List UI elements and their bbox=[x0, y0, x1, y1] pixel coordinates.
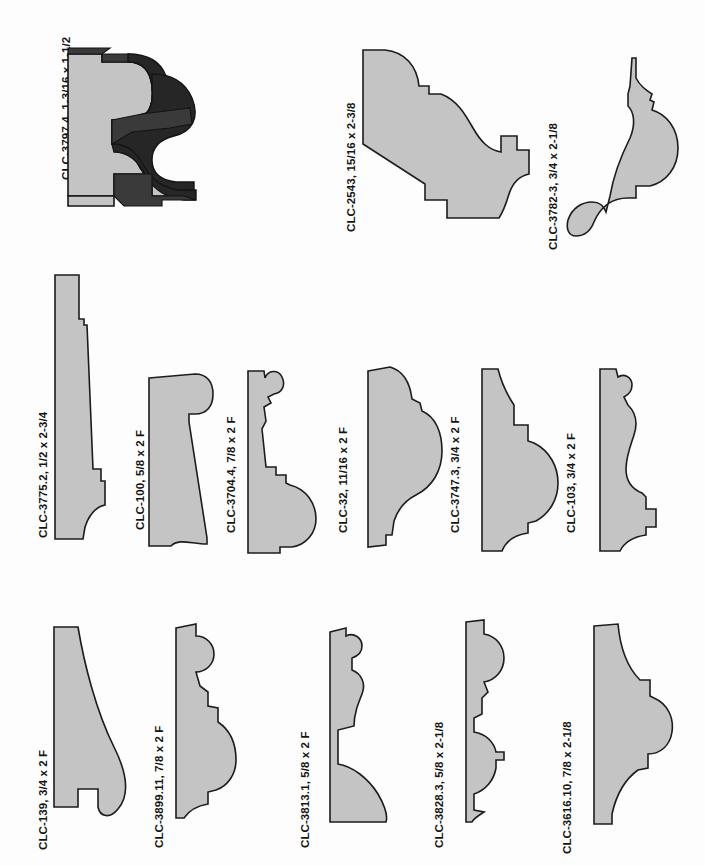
profile-item-clc-3782-3[interactable]: CLC-3782-3, 3/4 x 2-1/8 bbox=[538, 0, 705, 270]
profile-label: CLC-3704.4, 7/8 x 2 F bbox=[226, 416, 238, 533]
profile-label: CLC-100, 5/8 x 2 F bbox=[135, 430, 147, 530]
molding-profile-drawing bbox=[328, 626, 413, 826]
profile-label: CLC-32, 11/16 x 2 F bbox=[338, 427, 350, 533]
profile-label: CLC-103, 3/4 x 2 F bbox=[566, 433, 578, 533]
profile-label: CLC-3775.2, 1/2 x 2-3/4 bbox=[38, 412, 50, 538]
profile-item-clc-3704-4[interactable]: CLC-3704.4, 7/8 x 2 F bbox=[222, 265, 352, 555]
profile-label: CLC-3747.3, 3/4 x 2 F bbox=[450, 416, 462, 533]
molding-profile-drawing bbox=[592, 622, 682, 827]
molding-profile-drawing bbox=[174, 622, 264, 822]
molding-profile-drawing bbox=[566, 56, 696, 236]
profile-label: CLC-3828.3, 5/8 x 2-1/8 bbox=[434, 722, 446, 848]
molding-profile-drawing bbox=[147, 370, 227, 550]
catalog-page: CLC-3797.4, 1-3/16 x 1-1/2 bbox=[0, 0, 705, 866]
profile-label: CLC-139, 3/4 x 2 F bbox=[38, 750, 50, 850]
molding-profile-drawing bbox=[598, 365, 683, 555]
profile-item-clc-103[interactable]: CLC-103, 3/4 x 2 F bbox=[562, 265, 697, 555]
profile-label: CLC-3782-3, 3/4 x 2-1/8 bbox=[548, 123, 560, 250]
profile-label: CLC-3616.10, 7/8 x 2-1/8 bbox=[562, 721, 574, 854]
molding-profile-drawing bbox=[53, 273, 123, 543]
profile-item-clc-32[interactable]: CLC-32, 11/16 x 2 F bbox=[334, 265, 464, 555]
molding-profile-drawing bbox=[480, 365, 565, 555]
molding-profile-drawing bbox=[366, 365, 451, 555]
molding-profile-drawing bbox=[361, 48, 531, 223]
profile-item-clc-3747-3[interactable]: CLC-3747.3, 3/4 x 2 F bbox=[446, 265, 581, 555]
profile-item-clc-3899-11[interactable]: CLC-3899.11, 7/8 x 2 F bbox=[142, 580, 292, 866]
profile-label: CLC-3899.11, 7/8 x 2 F bbox=[154, 726, 166, 848]
molding-profile-drawing bbox=[246, 367, 331, 557]
profile-label: CLC-2543, 15/16 x 2-3/8 bbox=[346, 102, 358, 232]
molding-profile-drawing bbox=[52, 623, 142, 823]
profile-item-clc-3813-1[interactable]: CLC-3813.1, 5/8 x 2 F bbox=[278, 580, 428, 866]
molding-profile-drawing bbox=[464, 618, 549, 823]
profile-label: CLC-3813.1, 5/8 x 2 F bbox=[300, 731, 312, 848]
profile-item-clc-2543[interactable]: CLC-2543, 15/16 x 2-3/8 bbox=[338, 0, 538, 260]
molding-profile-drawing-3d bbox=[66, 48, 241, 208]
profile-item-clc-3616-10[interactable]: CLC-3616.10, 7/8 x 2-1/8 bbox=[540, 580, 700, 866]
profile-item-clc-3797-4[interactable]: CLC-3797.4, 1-3/16 x 1-1/2 bbox=[0, 0, 250, 250]
